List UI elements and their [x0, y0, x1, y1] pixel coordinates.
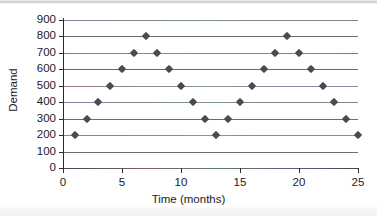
y-tick-label-400: 400: [20, 96, 56, 108]
gridline-y-700: [63, 53, 358, 54]
data-point: [177, 82, 185, 90]
data-point: [118, 65, 126, 73]
gridline-y-800: [63, 36, 358, 37]
data-point: [94, 98, 102, 106]
gridline-y-900: [63, 20, 358, 21]
y-axis-line: [63, 18, 64, 170]
x-tick-label-20: 20: [284, 176, 314, 188]
data-point: [71, 131, 79, 139]
x-tick-label-10: 10: [166, 176, 196, 188]
gridline-y-400: [63, 102, 358, 103]
y-tick-800: [59, 36, 64, 37]
x-axis-line-tint: [62, 168, 359, 169]
data-point: [153, 49, 161, 57]
data-point: [200, 114, 208, 122]
y-tick-300: [59, 119, 64, 120]
x-axis-title: Time (months): [0, 193, 377, 205]
data-point: [307, 65, 315, 73]
data-point: [212, 131, 220, 139]
data-point: [342, 114, 350, 122]
data-point: [106, 82, 114, 90]
data-point: [318, 82, 326, 90]
data-point: [295, 49, 303, 57]
chart-figure: 0100200300400500600700800900 0510152025 …: [0, 0, 377, 216]
y-tick-label-300: 300: [20, 113, 56, 125]
y-tick-900: [59, 20, 64, 21]
x-tick-0: [63, 168, 64, 173]
scan-edge-top: [0, 0, 377, 4]
data-point: [82, 114, 90, 122]
y-tick-500: [59, 86, 64, 87]
y-tick-label-100: 100: [20, 146, 56, 158]
y-tick-100: [59, 152, 64, 153]
x-tick-label-0: 0: [48, 176, 78, 188]
scan-edge-bottom: [0, 206, 377, 216]
y-tick-label-500: 500: [20, 80, 56, 92]
x-tick-label-25: 25: [343, 176, 373, 188]
plot-area: [63, 20, 358, 168]
y-tick-400: [59, 102, 64, 103]
y-tick-200: [59, 135, 64, 136]
data-point: [330, 98, 338, 106]
x-tick-5: [122, 168, 123, 173]
data-point: [189, 98, 197, 106]
x-tick-20: [299, 168, 300, 173]
x-tick-25: [358, 168, 359, 173]
y-tick-label-600: 600: [20, 63, 56, 75]
y-tick-600: [59, 69, 64, 70]
data-point: [354, 131, 362, 139]
data-point: [130, 49, 138, 57]
data-point: [236, 98, 244, 106]
y-axis-title: Demand: [7, 55, 19, 125]
gridline-y-100: [63, 152, 358, 153]
data-point: [259, 65, 267, 73]
x-tick-label-15: 15: [225, 176, 255, 188]
y-tick-label-700: 700: [20, 47, 56, 59]
x-tick-label-5: 5: [107, 176, 137, 188]
data-point: [248, 82, 256, 90]
data-point: [271, 49, 279, 57]
data-point: [165, 65, 173, 73]
y-tick-label-0: 0: [20, 162, 56, 174]
data-point: [224, 114, 232, 122]
data-point: [141, 32, 149, 40]
gridline-y-300: [63, 119, 358, 120]
gridline-y-200: [63, 135, 358, 136]
x-tick-10: [181, 168, 182, 173]
y-tick-700: [59, 53, 64, 54]
data-point: [283, 32, 291, 40]
x-tick-15: [240, 168, 241, 173]
y-tick-label-200: 200: [20, 129, 56, 141]
y-tick-label-800: 800: [20, 30, 56, 42]
y-tick-label-900: 900: [20, 14, 56, 26]
